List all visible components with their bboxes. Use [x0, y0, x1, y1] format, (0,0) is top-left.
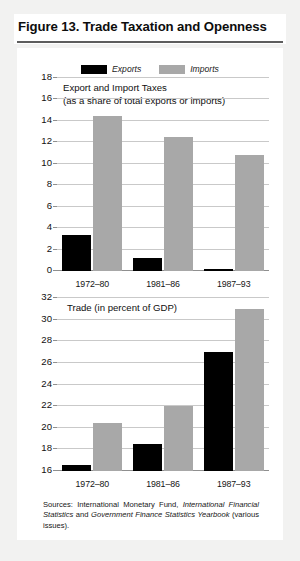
x-axis-label: 1981–86: [128, 279, 199, 289]
chart-panel-export-import-taxes: Export and Import Taxes (as a share of t…: [17, 78, 283, 293]
y-axis-tick-label: 8: [47, 179, 52, 189]
legend-label-exports: Exports: [112, 64, 141, 74]
bar-exports: [133, 258, 162, 271]
bar-exports: [204, 352, 233, 471]
bar-imports: [164, 137, 193, 271]
bar-imports: [164, 406, 193, 471]
plot-area-trade: 161820222426283032: [57, 298, 269, 471]
bar-group: [128, 78, 199, 271]
y-axis-tick-label: 18: [41, 72, 52, 82]
legend-item-imports: Imports: [159, 64, 219, 74]
bar-exports: [62, 465, 91, 471]
bar-exports: [62, 235, 91, 271]
bar-group: [57, 78, 128, 271]
bar-group: [57, 298, 128, 471]
title-divider: [17, 41, 283, 43]
y-axis-tick-label: 16: [41, 465, 52, 475]
source-note: Sources: International Monetary Fund, In…: [43, 500, 259, 531]
y-axis-tick-label: 0: [47, 265, 52, 275]
y-axis-tick-label: 28: [41, 335, 52, 345]
source-italic-2: Government Finance Statistics Yearbook: [91, 510, 230, 519]
x-axis-labels-taxes: 1972–801981–861987–93: [57, 279, 269, 289]
bar-group: [198, 298, 269, 471]
bar-group: [198, 78, 269, 271]
y-axis-tick-label: 26: [41, 357, 52, 367]
y-axis-tick-label: 16: [41, 94, 52, 104]
chart-panel-trade-percent-gdp: Trade (in percent of GDP) 16182022242628…: [17, 298, 283, 493]
source-prefix: Sources: International Monetary Fund,: [43, 500, 183, 509]
y-axis-tick-label: 32: [41, 292, 52, 302]
y-axis-tick-label: 22: [41, 400, 52, 410]
figure-body: Exports Imports Export and Import Taxes …: [17, 48, 283, 540]
bar-exports: [204, 269, 233, 271]
legend-item-exports: Exports: [81, 64, 141, 74]
chart-legend: Exports Imports: [17, 64, 283, 74]
x-axis-label: 1972–80: [57, 279, 128, 289]
x-axis-label: 1981–86: [128, 479, 199, 489]
y-axis-tick-label: 20: [41, 422, 52, 432]
y-axis-tick-label: 10: [41, 158, 52, 168]
y-axis-tick-label: 2: [47, 244, 52, 254]
x-axis-labels-trade: 1972–801981–861987–93: [57, 479, 269, 489]
x-axis-label: 1972–80: [57, 479, 128, 489]
bar-imports: [93, 423, 122, 471]
plot-area-taxes: 024681012141618: [57, 78, 269, 271]
page-title: Figure 13. Trade Taxation and Openness: [18, 19, 267, 34]
y-axis-tick-label: 18: [41, 444, 52, 454]
bar-groups-trade: [57, 298, 269, 471]
legend-label-imports: Imports: [190, 64, 219, 74]
y-axis-tick-label: 14: [41, 115, 52, 125]
bar-exports: [133, 444, 162, 471]
source-mid: and: [73, 510, 91, 519]
figure-page: Figure 13. Trade Taxation and Openness E…: [0, 0, 300, 561]
x-axis-label: 1987–93: [198, 479, 269, 489]
legend-swatch-imports-icon: [159, 65, 185, 74]
x-axis-label: 1987–93: [198, 279, 269, 289]
y-axis-tick-label: 30: [41, 314, 52, 324]
y-axis-tick-label: 24: [41, 379, 52, 389]
bar-imports: [235, 309, 264, 471]
bar-groups-taxes: [57, 78, 269, 271]
legend-swatch-exports-icon: [81, 65, 107, 74]
bar-imports: [235, 155, 264, 271]
bar-imports: [93, 116, 122, 271]
y-axis-tick-label: 6: [47, 201, 52, 211]
y-axis-tick-label: 12: [41, 137, 52, 147]
y-axis-tick-label: 4: [47, 222, 52, 232]
bar-group: [128, 298, 199, 471]
